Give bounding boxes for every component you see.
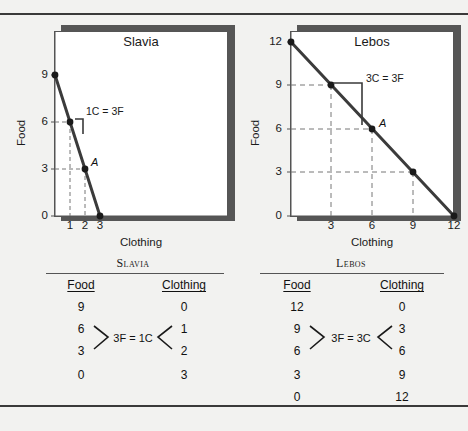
bottom-divider: [0, 405, 468, 407]
table-lebos: Lebos Food Clothing 12 9 6 3 0 0 3 6 9 1…: [252, 256, 450, 401]
ratio-label-slavia: 3F = 1C: [100, 332, 166, 344]
plot-graphics-slavia: [0, 0, 240, 250]
point-label-a-lebos: A: [379, 117, 386, 129]
plot-graphics-lebos: [240, 0, 468, 250]
table-slavia: Slavia Food Clothing 9 6 3 0 0 1 2 3 3F …: [38, 256, 228, 396]
table-brackets-slavia: [38, 256, 228, 396]
figure-page: Slavia 9 6 3 0 1 2 3 Clothing Food: [0, 0, 468, 431]
annotation-lebos: 3C = 3F: [366, 72, 404, 84]
table-brackets-lebos: [252, 256, 450, 401]
point-label-a-slavia: A: [91, 156, 98, 168]
annotation-slavia: 1C = 3F: [86, 105, 124, 117]
ratio-label-lebos: 3F = 3C: [318, 332, 384, 344]
chart-panel-slavia: Slavia 9 6 3 0 1 2 3 Clothing Food: [0, 0, 240, 250]
chart-panel-lebos: Lebos 12 9 6 3 0 3 6 9 12 Clothing Food: [240, 0, 468, 250]
